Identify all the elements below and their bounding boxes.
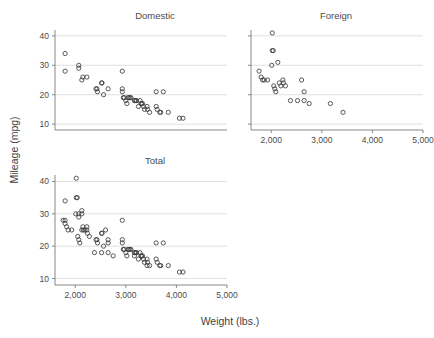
panel-title-total: Total bbox=[145, 155, 165, 166]
x-tick-label: 4,000 bbox=[362, 135, 384, 145]
y-tick-label: 40 bbox=[40, 176, 50, 186]
x-axis-title: Weight (lbs.) bbox=[201, 315, 260, 327]
panel-title-domestic: Domestic bbox=[135, 10, 175, 21]
y-tick-label: 40 bbox=[40, 31, 50, 41]
scatter-matrix-figure: Domestic 10203040 Foreign 2,0003,0004,00… bbox=[0, 0, 434, 338]
y-axis-title: Mileage (mpg) bbox=[8, 116, 20, 183]
panel-title-foreign: Foreign bbox=[320, 10, 352, 21]
y-tick-label: 30 bbox=[40, 60, 50, 70]
x-tick-label: 5,000 bbox=[412, 135, 434, 145]
y-tick-label: 10 bbox=[40, 274, 50, 284]
y-tick-label: 20 bbox=[40, 90, 50, 100]
x-tick-label: 5,000 bbox=[216, 290, 238, 300]
y-tick-label: 20 bbox=[40, 241, 50, 251]
y-tick-label: 10 bbox=[40, 119, 50, 129]
figure-background bbox=[0, 0, 434, 338]
y-tick-label: 30 bbox=[40, 209, 50, 219]
x-tick-label: 2,000 bbox=[261, 135, 283, 145]
x-tick-label: 4,000 bbox=[166, 290, 188, 300]
x-tick-label: 3,000 bbox=[311, 135, 333, 145]
x-tick-label: 3,000 bbox=[115, 290, 137, 300]
x-tick-label: 2,000 bbox=[65, 290, 87, 300]
